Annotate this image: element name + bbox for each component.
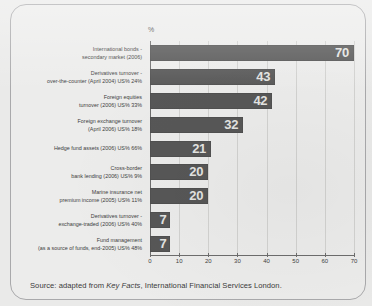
x-tick-mark-0	[150, 253, 151, 257]
plot-area: 7043423221202077	[150, 41, 354, 256]
x-tick-label-0: 0	[148, 258, 151, 264]
gridline-70	[354, 41, 355, 256]
source-prefix: Source: adapted from	[30, 281, 106, 290]
bar-value-label: 20	[189, 166, 203, 179]
bar-row[interactable]: 7	[150, 212, 354, 228]
category-label: Fund management(as a source of funds, en…	[38, 236, 142, 252]
category-label: Cross-borderbank lending (2006) US% 9%	[71, 164, 142, 180]
x-tick-label-40: 40	[263, 258, 270, 264]
bar-value-label: 32	[224, 118, 238, 131]
x-axis-tick-group: 010203040506070	[150, 258, 354, 270]
bar-row[interactable]: 7	[150, 236, 354, 252]
x-axis-line	[150, 255, 354, 256]
category-label-line: over-the-counter (April 2004) US% 24%	[47, 77, 142, 85]
bar-row[interactable]: 21	[150, 141, 354, 157]
category-label-line: Cross-border	[71, 164, 142, 172]
x-tick-label-70: 70	[351, 258, 358, 264]
category-label-line: Marine insurance net	[59, 188, 142, 196]
x-tick-mark-50	[296, 253, 297, 257]
bar-value-label: 42	[253, 94, 267, 107]
category-label-group: International bonds -secondary market (2…	[0, 41, 146, 256]
x-tick-mark-30	[237, 253, 238, 257]
category-label: Derivatives turnover -exchange-traded (2…	[58, 212, 142, 228]
x-tick-mark-20	[208, 253, 209, 257]
category-label: International bonds -secondary market (2…	[82, 45, 142, 61]
category-label-line: Derivatives turnover -	[47, 69, 142, 77]
category-label-line: Derivatives turnover -	[58, 212, 142, 220]
category-label-line: Hedge fund assets (2006) US% 66%	[54, 144, 142, 152]
x-tick-label-20: 20	[205, 258, 212, 264]
category-label-line: bank lending (2006) US% 9%	[71, 172, 142, 180]
x-tick-label-50: 50	[292, 258, 299, 264]
bar-row[interactable]: 20	[150, 164, 354, 180]
category-label: Foreign equitiesturnover (2006) US% 33%	[79, 93, 142, 109]
category-label-line: turnover (2006) US% 33%	[79, 101, 142, 109]
bar[interactable]	[150, 45, 354, 61]
bar-row[interactable]: 32	[150, 117, 354, 133]
source-note: Source: adapted from Key Facts, Internat…	[30, 281, 282, 290]
bar-value-label: 43	[256, 70, 270, 83]
bar-value-label: 70	[335, 46, 349, 59]
category-label: Marine insurance netpremium income (2005…	[59, 188, 142, 204]
axis-unit-label: %	[148, 26, 154, 33]
source-title: Key Facts	[106, 281, 140, 290]
bar-value-label: 20	[189, 190, 203, 203]
category-label-line: Fund management	[38, 236, 142, 244]
x-tick-label-30: 30	[234, 258, 241, 264]
bar-row[interactable]: 20	[150, 188, 354, 204]
x-tick-label-60: 60	[322, 258, 329, 264]
bar-row[interactable]: 42	[150, 93, 354, 109]
category-label-line: premium income (2005) US% 11%	[59, 196, 142, 204]
bar-row[interactable]: 70	[150, 45, 354, 61]
x-tick-mark-60	[325, 253, 326, 257]
x-tick-mark-70	[354, 253, 355, 257]
category-label-line: (April 2006) US% 18%	[78, 125, 142, 133]
bar-value-label: 21	[192, 142, 206, 155]
category-label: Foreign exchange turnover(April 2006) US…	[78, 117, 142, 133]
category-label: Derivatives turnover -over-the-counter (…	[47, 69, 142, 85]
category-label-line: International bonds -	[82, 45, 142, 53]
x-tick-mark-10	[179, 253, 180, 257]
x-tick-label-10: 10	[176, 258, 183, 264]
category-label-line: (as a source of funds, end-2005) US% 48%	[38, 244, 142, 252]
source-suffix: , International Financial Services Londo…	[140, 281, 281, 290]
category-label-line: Foreign equities	[79, 93, 142, 101]
x-tick-mark-40	[267, 253, 268, 257]
bar-value-label: 7	[159, 237, 166, 250]
category-label-line: exchange-traded (2006) US% 40%	[58, 220, 142, 228]
category-label-line: Foreign exchange turnover	[78, 117, 142, 125]
category-label-line: secondary market (2006)	[82, 53, 142, 61]
bar-row[interactable]: 43	[150, 69, 354, 85]
bar-value-label: 7	[159, 213, 166, 226]
chart-figure: % International bonds -secondary market …	[0, 0, 372, 306]
category-label: Hedge fund assets (2006) US% 66%	[54, 144, 142, 152]
